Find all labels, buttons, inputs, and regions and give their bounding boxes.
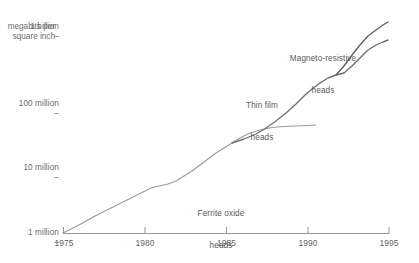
y-tick-text-10-million: 10 million — [23, 163, 59, 172]
annotation-ferrite-oxide-line1: Ferrite oxide — [178, 209, 264, 220]
y-tick-dash-100-million: – — [54, 109, 59, 118]
x-tick-label-1995: 1995 — [369, 238, 409, 249]
x-tick-label-1980: 1980 — [125, 238, 165, 249]
density-trend-chart: 1 billion – megabits per square inch 100… — [0, 0, 419, 263]
y-tick-dash-10-million: – — [54, 173, 59, 182]
y-axis-unit-line1: megabits per — [0, 22, 55, 33]
annotation-ferrite-oxide: Ferrite oxide heads — [178, 188, 264, 263]
annotation-ferrite-oxide-line2: heads — [178, 241, 264, 252]
annotation-thin-film-line2: heads — [222, 133, 302, 144]
y-tick-text-1-million: 1 million — [28, 228, 59, 237]
annotation-thin-film: Thin film heads — [222, 80, 302, 164]
annotation-thin-film-line1: Thin film — [222, 101, 302, 112]
y-axis-unit-caption: megabits per square inch — [0, 22, 55, 43]
y-tick-label-100-million: 100 million – — [0, 88, 59, 130]
y-tick-dash-1-billion: – — [54, 32, 59, 41]
y-axis-unit-line2: square inch — [0, 32, 55, 43]
y-tick-text-100-million: 100 million — [19, 99, 59, 108]
annotation-magneto-resistive-line1: Magneto-resistive — [271, 54, 375, 65]
y-tick-label-10-million: 10 million – — [0, 152, 59, 194]
x-tick-label-1975: 1975 — [44, 238, 84, 249]
x-tick-label-1990: 1990 — [288, 238, 328, 249]
